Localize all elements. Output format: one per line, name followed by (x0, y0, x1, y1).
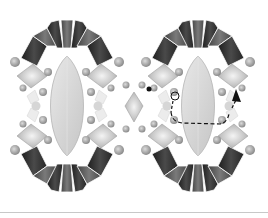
left-component (10, 20, 124, 192)
bottom-divider (0, 212, 268, 213)
right-component (141, 20, 255, 192)
center-diamond (123, 82, 146, 133)
beading-diagram (0, 0, 268, 218)
thread-start-dot (147, 87, 152, 92)
